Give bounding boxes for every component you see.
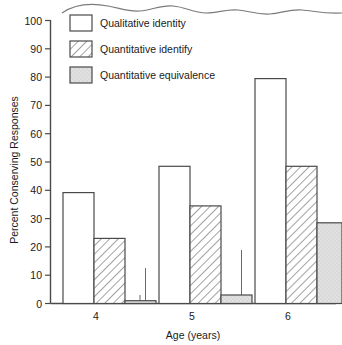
bar-age6-quantitative-identify [286, 166, 317, 303]
bar-age4-qualitative-identity [63, 193, 94, 304]
x-tick-labels: 4 5 6 [93, 310, 291, 322]
bar-group-age-4 [63, 193, 156, 304]
chart-figure: 100 90 80 70 60 50 40 30 20 10 0 [0, 0, 342, 345]
y-tick-label: 30 [30, 213, 42, 225]
bar-age4-quantitative-identify [94, 238, 125, 303]
legend-label: Quantitative identify [100, 43, 193, 55]
y-tick-label: 40 [30, 184, 42, 196]
dotted-swatch-icon [70, 67, 92, 83]
plot-area: 100 90 80 70 60 50 40 30 20 10 0 [0, 0, 342, 345]
y-axis [45, 20, 51, 304]
white-swatch-icon [70, 15, 92, 31]
y-tick-label: 10 [30, 269, 42, 281]
y-tick-label: 60 [30, 128, 42, 140]
y-tick-labels: 100 90 80 70 60 50 40 30 20 10 0 [24, 15, 42, 310]
x-axis-title: Age (years) [166, 329, 220, 341]
x-tick-label-age-6: 6 [285, 310, 291, 322]
bar-group-age-5 [159, 166, 252, 303]
x-tick-label-age-4: 4 [93, 310, 99, 322]
bar-age6-qualitative-identity [255, 79, 286, 304]
hatched-swatch-icon [70, 41, 92, 57]
legend-label: Quantitative equivalence [100, 69, 215, 81]
legend: Qualitative identity Quantitative identi… [70, 15, 215, 83]
y-tick-label: 80 [30, 71, 42, 83]
bar-age4-quantitative-equivalence [125, 301, 156, 304]
x-tick-label-age-5: 5 [189, 310, 195, 322]
y-tick-label: 90 [30, 43, 42, 55]
bar-age6-quantitative-equivalence [317, 223, 342, 304]
bar-age5-quantitative-equivalence [221, 295, 252, 304]
y-tick-label: 100 [24, 15, 42, 27]
bar-age5-qualitative-identity [159, 166, 190, 303]
legend-item-quantitative-equivalence: Quantitative equivalence [70, 67, 215, 83]
legend-item-qualitative-identity: Qualitative identity [70, 15, 187, 31]
y-tick-label: 20 [30, 241, 42, 253]
y-tick-label: 70 [30, 99, 42, 111]
bar-age5-quantitative-identify [190, 206, 221, 304]
y-tick-label: 50 [30, 156, 42, 168]
legend-label: Qualitative identity [100, 17, 187, 29]
y-axis-title: Percent Conserving Responses [8, 96, 20, 244]
bar-group-age-6 [255, 79, 342, 304]
legend-item-quantitative-identify: Quantitative identify [70, 41, 193, 57]
y-tick-label: 0 [36, 298, 42, 310]
